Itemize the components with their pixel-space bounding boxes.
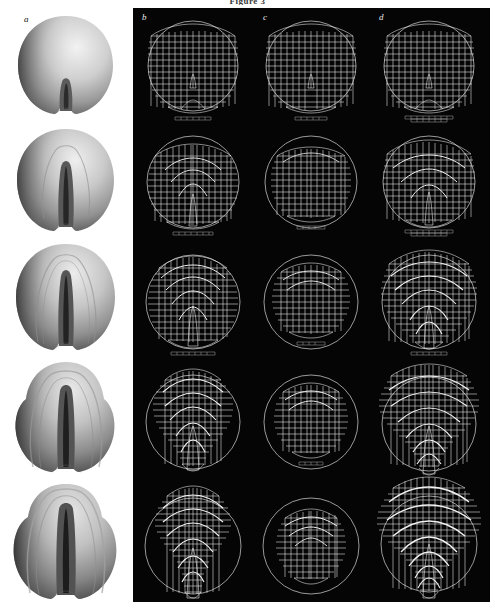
mesh-c-row5 — [253, 480, 369, 602]
mesh-d-row5 — [371, 476, 487, 602]
embryo-cell-row3 — [0, 238, 133, 357]
column-b-label: b — [142, 12, 147, 22]
embryo-cell-row1: a — [0, 8, 133, 123]
mesh-b-row3 — [135, 242, 251, 360]
column-d-label: d — [379, 12, 384, 22]
mesh-c-row4 — [253, 360, 369, 480]
mesh-b-row2 — [135, 126, 251, 240]
mesh-b-row4 — [135, 360, 251, 480]
simulation-panel: b c d — [133, 8, 490, 602]
mesh-d-row2 — [371, 126, 487, 240]
embryo-render-3 — [0, 238, 133, 357]
embryo-cell-row5 — [0, 479, 133, 606]
embryo-cell-row2 — [0, 123, 133, 238]
mesh-d-row1 — [371, 14, 487, 124]
mesh-b-row5 — [135, 480, 251, 602]
mesh-d-row4 — [371, 360, 487, 480]
mesh-c-row2 — [253, 126, 369, 240]
embryo-render-5 — [0, 479, 133, 606]
column-a: a — [0, 8, 133, 606]
figure-root: Figure 3 a — [0, 0, 495, 610]
mesh-c-row1 — [253, 14, 369, 124]
embryo-render-1 — [0, 8, 133, 123]
embryo-render-2 — [0, 123, 133, 238]
column-c-label: c — [263, 12, 267, 22]
embryo-cell-row4 — [0, 357, 133, 479]
mesh-b-row1 — [135, 14, 251, 124]
figure-title: Figure 3 — [0, 0, 495, 5]
mesh-d-row3 — [371, 242, 487, 360]
mesh-c-row3 — [253, 242, 369, 360]
embryo-render-4 — [0, 357, 133, 479]
